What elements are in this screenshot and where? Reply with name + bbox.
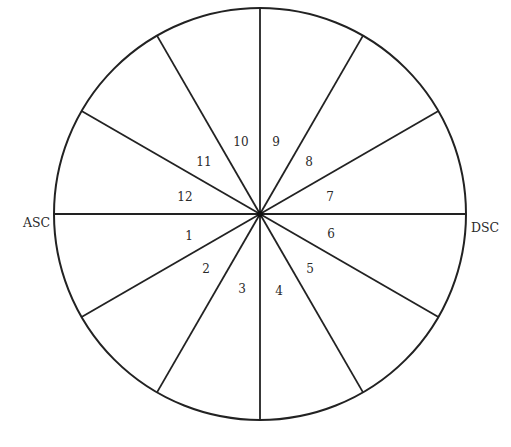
house-number-8: 8 (305, 155, 313, 169)
house-number-2: 2 (202, 262, 210, 276)
house-number-9: 9 (272, 135, 280, 149)
cusp-line (260, 214, 438, 317)
house-wheel-diagram: 123456789101112 ASC DSC (0, 0, 511, 447)
house-number-3: 3 (238, 282, 246, 296)
cusp-line (157, 36, 260, 214)
house-number-11: 11 (196, 155, 211, 169)
house-number-5: 5 (306, 262, 314, 276)
house-number-6: 6 (327, 227, 335, 241)
cusp-line (82, 111, 260, 214)
cusp-line (260, 111, 438, 214)
cusp-line (82, 214, 260, 317)
house-number-12: 12 (177, 190, 192, 204)
house-number-10: 10 (233, 135, 248, 149)
cusp-line (260, 36, 363, 214)
asc-label: ASC (22, 215, 50, 230)
dsc-label: DSC (471, 220, 499, 235)
house-number-1: 1 (185, 229, 193, 243)
cusp-line (157, 214, 260, 392)
house-number-4: 4 (275, 284, 283, 298)
cusp-line (260, 214, 363, 392)
house-number-7: 7 (326, 190, 334, 204)
center-hub (257, 211, 263, 217)
